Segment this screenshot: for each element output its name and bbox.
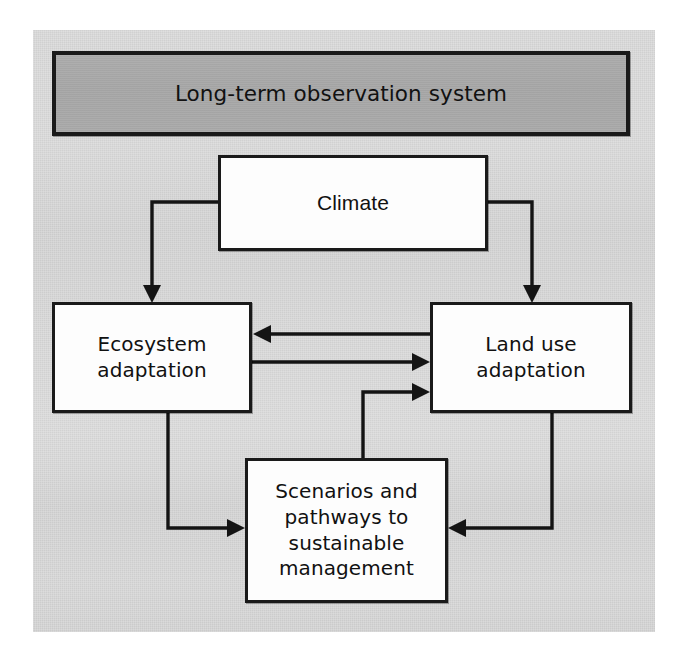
node-land-use-adaptation: Land use adaptation <box>430 302 632 413</box>
long-term-observation-system-banner: Long-term observation system <box>52 51 630 136</box>
node-climate-label: Climate <box>311 190 395 217</box>
node-scenarios-and-pathways: Scenarios and pathways to sustainable ma… <box>245 458 448 603</box>
node-climate: Climate <box>218 155 488 251</box>
node-land-use-adaptation-label: Land use adaptation <box>470 332 591 383</box>
node-ecosystem-adaptation-label: Ecosystem adaptation <box>91 332 212 383</box>
node-ecosystem-adaptation: Ecosystem adaptation <box>52 302 252 413</box>
flow-diagram-figure: Long-term observation system Climate Eco… <box>0 0 679 665</box>
banner-label: Long-term observation system <box>169 80 513 108</box>
node-scenarios-and-pathways-label: Scenarios and pathways to sustainable ma… <box>269 479 424 581</box>
